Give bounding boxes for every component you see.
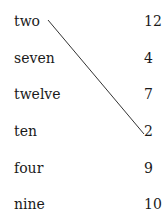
connection-lines [0, 0, 165, 220]
connection-two-to-2 [48, 20, 144, 134]
